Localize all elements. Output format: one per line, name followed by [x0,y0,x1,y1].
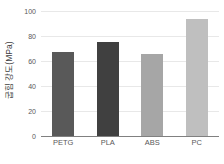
y-axis-tick-label: 0 [32,133,36,140]
x-axis-tick-label-pc: PC [175,139,220,147]
x-axis-tick-label-pla: PLA [86,139,131,147]
y-axis-tick-labels: 020406080100 [17,0,39,140]
y-axis-title-text: 굽힘 강도(MPa) [5,41,14,99]
y-axis-tick-label: 80 [28,33,36,40]
bar-pla[interactable] [97,42,119,136]
x-axis-tick-labels: PETGPLAABSPC [41,139,219,155]
y-axis-tick-label: 100 [24,8,36,15]
bar-chart: 굽힘 강도(MPa) 020406080100 PETGPLAABSPC [0,0,224,164]
bar-slot [41,11,86,136]
y-axis-title: 굽힘 강도(MPa) [0,0,18,140]
bar-slot [175,11,220,136]
plot-area [41,11,219,136]
x-axis-tick-label-petg: PETG [41,139,86,147]
y-axis-tick-label: 40 [28,83,36,90]
bar-petg[interactable] [52,52,74,136]
y-axis-tick-label: 60 [28,58,36,65]
x-axis-tick-label-abs: ABS [130,139,175,147]
y-axis-tick-label: 20 [28,108,36,115]
bar-slot [86,11,131,136]
bar-pc[interactable] [186,19,208,137]
x-axis-line [41,136,219,138]
bar-abs[interactable] [141,54,163,137]
bar-slot [130,11,175,136]
bars-container [41,11,219,136]
